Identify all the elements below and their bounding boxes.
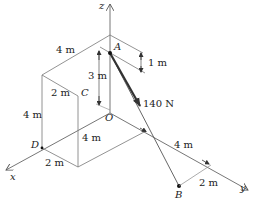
axis-label-y: y [240, 183, 246, 193]
y-axis [110, 113, 248, 190]
dim-label-b-2m: 2 m [199, 178, 218, 188]
dim-label-1m: 1 m [148, 58, 167, 68]
point-label-o: O [105, 113, 113, 123]
dim-label-top-4m: 4 m [56, 45, 75, 55]
axis-label-x: x [10, 172, 16, 182]
point-label-c: C [81, 88, 89, 98]
point-d-marker [41, 147, 44, 150]
force-label: 140 N [143, 99, 174, 109]
force-arrow-140n [110, 53, 140, 106]
dim-label-box-2m: 2 m [51, 88, 70, 98]
dim-label-bottom-4m: 4 m [82, 133, 101, 143]
point-a-marker [108, 51, 112, 55]
axis-label-z: z [99, 1, 104, 11]
dim-label-box-4m: 4 m [23, 110, 42, 120]
dim-label-y-4m: 4 m [174, 140, 193, 150]
diagram-canvas [0, 0, 255, 203]
point-label-a: A [114, 42, 121, 52]
point-label-b: B [175, 190, 182, 200]
dim-label-3m: 3 m [88, 71, 107, 81]
point-label-d: D [31, 140, 39, 150]
dim-label-x-2m: 2 m [45, 158, 64, 168]
